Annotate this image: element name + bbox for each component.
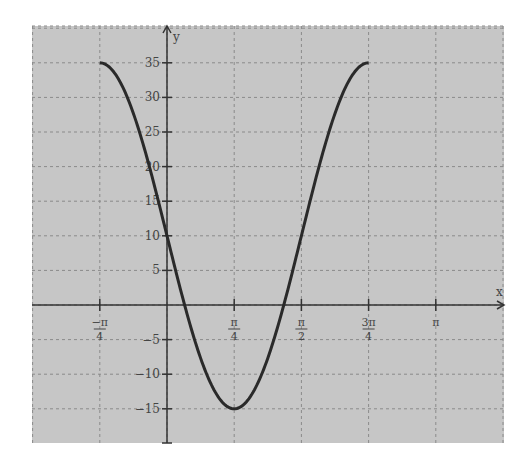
x-tick-label: 3π: [361, 316, 375, 329]
function-plot: 3530252015105−5−10−15−π4π4π23π4π x y: [0, 0, 528, 459]
y-axis-label: y: [172, 30, 180, 44]
svg-text:4: 4: [96, 330, 103, 343]
y-tick-label: 25: [145, 125, 160, 139]
svg-text:4: 4: [231, 330, 238, 343]
y-tick-label: 35: [145, 56, 160, 70]
x-tick-label: π: [231, 316, 238, 329]
y-tick-label: −15: [135, 402, 160, 416]
x-tick-label: π: [298, 316, 305, 329]
y-tick-label: −10: [135, 367, 160, 381]
x-axis-label: x: [496, 285, 503, 299]
y-tick-label: 10: [145, 229, 160, 243]
svg-text:4: 4: [365, 330, 372, 343]
x-tick-label: π: [432, 316, 439, 329]
y-tick-label: 30: [145, 90, 160, 104]
plot-area: [32, 26, 504, 443]
x-tick-label: −π: [92, 316, 108, 329]
svg-text:2: 2: [298, 330, 305, 343]
y-tick-label: −5: [142, 333, 160, 347]
y-tick-label: 5: [152, 263, 160, 277]
